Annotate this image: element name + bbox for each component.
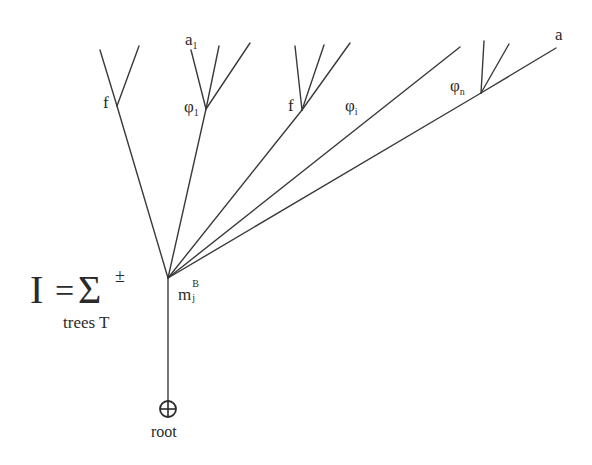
f-mid-text: f [288,96,294,115]
edge-phi-n-leaf-a [481,48,556,93]
label-vertex-m-j-b: mBj [178,283,201,303]
edge-vertex-to-f-left [117,106,168,278]
edge-vertex-to-phi-n [168,93,481,278]
a1-base-text: a [185,30,193,49]
label-a1: a1 [185,31,198,51]
tree-diagram [0,0,592,465]
formula-sigma: Σ [78,270,101,310]
label-phi-i: φi [345,97,358,117]
label-phi-1: φ1 [184,98,199,118]
phii-sub-text: i [355,106,358,117]
vertex-sub-text: j [192,293,195,303]
edge-phi-n-leaf-2 [481,44,509,93]
vertex-base-text: m [178,285,191,304]
label-f-left: f [103,94,109,111]
formula-equals: = [55,274,74,308]
formula-subscript: trees T [63,314,109,331]
root-circle-plus-icon [160,401,176,417]
edge-vertex-to-f-mid [168,110,302,278]
label-a-right: a [555,26,563,43]
formula-lhs: I [30,270,43,310]
edge-f-mid-leaf-3 [302,43,350,110]
edge-f-mid-leaf-2 [302,45,324,110]
f-left-text: f [103,93,109,112]
phii-base-text: φ [345,96,355,115]
phi1-sub-text: 1 [194,107,199,118]
label-root: root [151,424,177,440]
phin-base-text: φ [450,76,460,95]
phi1-base-text: φ [184,97,194,116]
a-right-text: a [555,25,563,44]
vertex-sup-text: B [192,279,199,289]
label-phi-n: φn [450,77,465,97]
root-text: root [151,423,177,440]
phin-sub-text: n [460,86,465,97]
edge-f-left-leaf-2 [117,46,139,106]
formula-plus-minus: ± [115,267,125,285]
label-f-mid: f [288,97,294,114]
edge-phi-n-leaf-1 [481,41,484,93]
edge-f-mid-leaf-1 [295,46,302,110]
a1-sub-text: 1 [193,40,198,51]
